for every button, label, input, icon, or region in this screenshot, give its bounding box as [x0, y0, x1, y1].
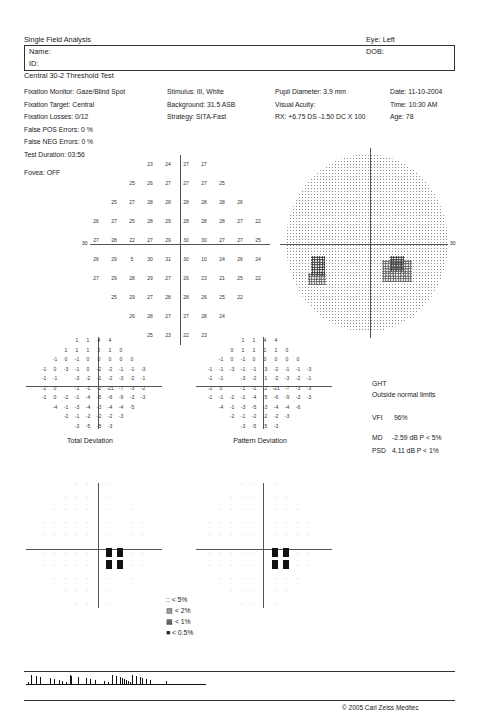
grid-value: 10	[198, 256, 210, 262]
grid-value: 27	[180, 313, 192, 319]
grid-value: 25	[234, 275, 246, 281]
probability-dot-icon: ·	[126, 573, 136, 583]
probability-dot-icon: ·	[126, 548, 136, 558]
psd-value: 4.11 dB P < 1%	[392, 445, 439, 458]
gaze-bar	[132, 675, 133, 684]
grid-value: -3	[137, 394, 149, 400]
probability-dot-icon: ·	[237, 529, 247, 539]
probability-legend: :: < 5% ▨ < 2% ▩ < 1% ■ < 0.5%	[166, 594, 193, 638]
probability-dot-icon: ·	[115, 529, 125, 539]
grid-value: 27	[216, 237, 228, 243]
grid-value: 23	[198, 275, 210, 281]
probability-dot-icon: ·	[303, 517, 313, 527]
probability-dot-icon: ·	[292, 504, 302, 514]
ght-value: Outside normal limits	[372, 389, 435, 402]
false-pos-errors: False POS Errors: 0 %	[24, 124, 125, 137]
grid-value: 27	[144, 237, 156, 243]
probability-dot-icon: ·	[93, 529, 103, 539]
probability-dot-icon: ·	[303, 529, 313, 539]
gaze-bar	[150, 680, 151, 684]
probability-dot-icon: ·	[270, 598, 280, 608]
probability-dot-icon: ·	[49, 504, 59, 514]
gaze-tracking-bars	[26, 674, 206, 685]
probability-dot-icon: ·	[71, 560, 81, 570]
grayscale-field	[286, 154, 448, 332]
gaze-bar	[59, 680, 60, 684]
report-title: Single Field Analysis	[24, 35, 91, 44]
probability-dot-icon: ·	[60, 573, 70, 583]
defect-left-lower	[308, 273, 326, 285]
probability-dot-icon: ·	[126, 560, 136, 570]
grid-value: 25	[126, 218, 138, 224]
probability-dot-icon: ·	[93, 517, 103, 527]
legend-hatch-dark-icon: ▩	[166, 618, 173, 625]
probability-dot-icon: ·	[60, 548, 70, 558]
gaze-bar	[40, 677, 41, 684]
grayscale-plot: 30	[278, 148, 468, 338]
gaze-bar	[124, 679, 125, 684]
probability-dot-icon: ·	[93, 504, 103, 514]
horizontal-axis	[90, 244, 270, 245]
grid-value: 27	[198, 180, 210, 186]
grid-value: 30	[180, 237, 192, 243]
eye-label: Eye: Left	[366, 35, 395, 44]
gaze-bar	[71, 676, 72, 684]
probability-dot-icon: ·	[204, 560, 214, 570]
grid-value: 28	[144, 199, 156, 205]
probability-dot-icon: ·	[60, 529, 70, 539]
grid-value: 27	[162, 313, 174, 319]
grid-value: 28	[198, 313, 210, 319]
grid-value: 22	[126, 237, 138, 243]
probability-dot-icon: ·	[237, 598, 247, 608]
probability-dot-icon: ·	[270, 529, 280, 539]
probability-dot-icon: ·	[38, 517, 48, 527]
gaze-bar	[130, 682, 131, 684]
grid-value: 27	[90, 237, 102, 243]
legend-item-5pct: :: < 5%	[166, 594, 193, 605]
grid-value: 26	[234, 199, 246, 205]
probability-dot-icon: ·	[259, 598, 269, 608]
probability-dot-icon: ·	[281, 585, 291, 595]
probability-dot-icon: ·	[82, 479, 92, 489]
time: Time: 10:30 AM	[390, 99, 442, 112]
gaze-bar	[128, 681, 129, 684]
grid-value: 27	[198, 161, 210, 167]
probability-05pct-icon	[106, 560, 112, 569]
vfi-label: VFI	[372, 412, 383, 425]
probability-dot-icon: ·	[270, 479, 280, 489]
probability-dot-icon: ·	[104, 585, 114, 595]
probability-dot-icon: ·	[292, 548, 302, 558]
grid-value: 28	[126, 275, 138, 281]
probability-dot-icon: ·	[226, 492, 236, 502]
probability-dot-icon: ·	[38, 560, 48, 570]
probability-05pct-icon	[283, 560, 289, 569]
probability-dot-icon: ·	[248, 585, 258, 595]
threshold-grid: 30 2324272725262727272525272828282828262…	[90, 155, 270, 345]
probability-dot-icon: ·	[93, 560, 103, 570]
grid-value: 0	[215, 385, 227, 391]
probability-dot-icon: ·	[248, 479, 258, 489]
probability-05pct-icon	[106, 548, 112, 557]
probability-dot-icon: ·	[82, 504, 92, 514]
probability-dot-icon: ·	[137, 517, 147, 527]
grid-value: 27	[126, 199, 138, 205]
grid-value: 27	[180, 180, 192, 186]
probability-dot-icon: ·	[303, 560, 313, 570]
grid-value: 24	[216, 313, 228, 319]
grid-value: 27	[234, 237, 246, 243]
gaze-bar	[90, 679, 91, 684]
grid-value: 28	[198, 218, 210, 224]
probability-05pct-icon	[117, 560, 123, 569]
total-deviation-probability-plot: ········································…	[38, 483, 148, 608]
grid-value: 26	[180, 275, 192, 281]
stimulus: Stimulus: III, White	[167, 86, 235, 99]
grid-value: 28	[198, 199, 210, 205]
gaze-bar	[31, 675, 32, 684]
probability-05pct-icon	[283, 548, 289, 557]
probability-dot-icon: ·	[248, 573, 258, 583]
grid-value: -1	[303, 375, 315, 381]
grid-value: 26	[90, 218, 102, 224]
grid-value: 31	[162, 256, 174, 262]
probability-dot-icon: ·	[281, 529, 291, 539]
fixation-losses: Fixation Losses: 0/12	[24, 111, 125, 124]
